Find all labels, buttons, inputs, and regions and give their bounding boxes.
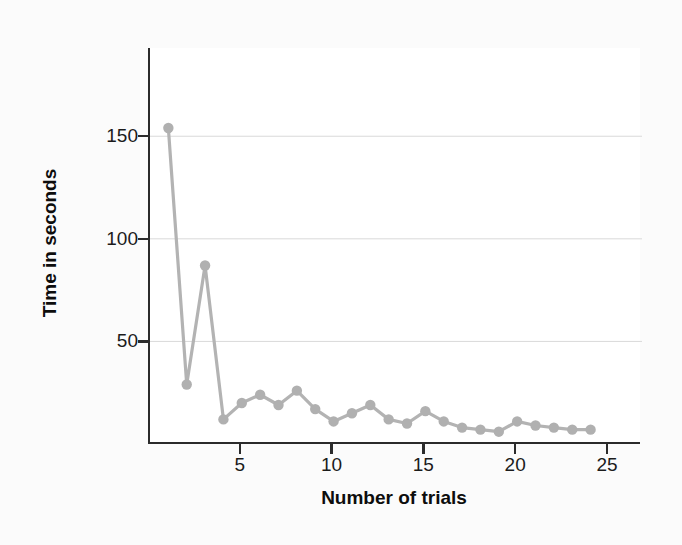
data-point-marker bbox=[585, 424, 595, 434]
y-tick-label: 50 bbox=[117, 331, 138, 350]
x-tick-label: 20 bbox=[505, 455, 526, 474]
data-markers bbox=[163, 123, 596, 437]
line-chart-svg bbox=[150, 48, 642, 444]
x-tick-label: 5 bbox=[234, 455, 245, 474]
y-axis-tick-labels: 15010050 bbox=[90, 0, 138, 545]
data-point-marker bbox=[328, 416, 338, 426]
data-point-marker bbox=[420, 406, 430, 416]
y-axis-title: Time in seconds bbox=[39, 163, 61, 323]
data-point-marker bbox=[494, 426, 504, 436]
series-line bbox=[168, 128, 590, 432]
data-point-marker bbox=[237, 398, 247, 408]
data-point-marker bbox=[292, 385, 302, 395]
plot-area bbox=[148, 48, 640, 444]
data-point-marker bbox=[255, 390, 265, 400]
data-point-marker bbox=[439, 416, 449, 426]
data-point-marker bbox=[200, 260, 210, 270]
x-tick-label: 25 bbox=[596, 455, 617, 474]
y-tick-label: 100 bbox=[106, 229, 138, 248]
data-point-marker bbox=[530, 420, 540, 430]
y-tick-label: 150 bbox=[106, 126, 138, 145]
chart-figure: 15010050 510152025 Time in seconds Numbe… bbox=[0, 0, 682, 545]
data-point-marker bbox=[365, 400, 375, 410]
x-tick-mark bbox=[239, 444, 242, 454]
data-point-marker bbox=[310, 404, 320, 414]
x-axis-title: Number of trials bbox=[148, 487, 640, 509]
data-point-marker bbox=[182, 379, 192, 389]
data-point-marker bbox=[347, 408, 357, 418]
x-tick-label: 10 bbox=[321, 455, 342, 474]
data-line bbox=[168, 128, 590, 432]
data-point-marker bbox=[512, 416, 522, 426]
data-point-marker bbox=[549, 422, 559, 432]
data-point-marker bbox=[402, 418, 412, 428]
gridlines bbox=[150, 136, 642, 341]
data-point-marker bbox=[475, 424, 485, 434]
y-tick-mark bbox=[138, 238, 150, 241]
data-point-marker bbox=[218, 414, 228, 424]
x-tick-label: 15 bbox=[413, 455, 434, 474]
data-point-marker bbox=[273, 400, 283, 410]
data-point-marker bbox=[567, 424, 577, 434]
data-point-marker bbox=[383, 414, 393, 424]
data-point-marker bbox=[457, 422, 467, 432]
y-tick-mark bbox=[138, 135, 150, 138]
y-tick-mark bbox=[138, 340, 150, 343]
data-point-marker bbox=[163, 123, 173, 133]
x-tick-mark bbox=[606, 444, 609, 454]
x-tick-mark bbox=[330, 444, 333, 454]
x-tick-mark bbox=[514, 444, 517, 454]
x-tick-mark bbox=[422, 444, 425, 454]
